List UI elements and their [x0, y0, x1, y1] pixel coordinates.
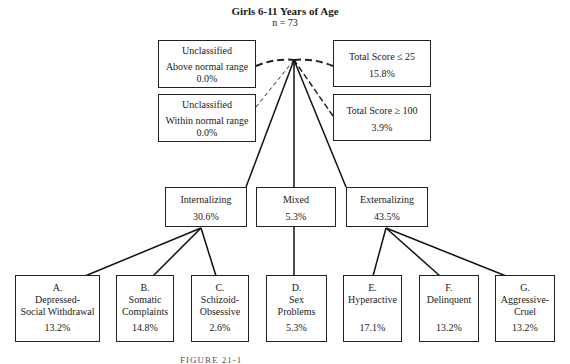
- factor-d-box: D. Sex Problems 5.3%: [266, 275, 327, 342]
- factor-pct: 13.2%: [420, 322, 478, 334]
- group-label: Internalizing: [166, 194, 246, 206]
- unclassified-pct: 0.0%: [159, 127, 255, 139]
- group-pct: 43.5%: [347, 211, 427, 223]
- factor-line1: Schizoid-: [192, 294, 248, 306]
- factor-line1: Somatic: [117, 294, 173, 306]
- factor-pct: 2.6%: [192, 322, 248, 334]
- factor-line2: Social Withdrawal: [16, 306, 99, 318]
- factor-line1: Hyperactive: [344, 294, 401, 306]
- factor-line2: Complaints: [117, 306, 173, 318]
- factor-line2: Cruel: [496, 306, 554, 318]
- group-pct: 30.6%: [166, 211, 246, 223]
- group-mixed-box: Mixed 5.3%: [256, 187, 336, 227]
- factor-letter: D.: [267, 282, 326, 294]
- factor-g-box: G. Aggressive- Cruel 13.2%: [495, 275, 555, 342]
- group-label: Externalizing: [347, 194, 427, 206]
- factor-letter: C.: [192, 282, 248, 294]
- unclassified-above-box: Unclassified Above normal range 0.0%: [158, 40, 256, 88]
- factor-letter: G.: [496, 282, 554, 294]
- total-score-label: Total Score ≤ 25: [334, 51, 430, 63]
- factor-a-box: A. Depressed- Social Withdrawal 13.2%: [15, 275, 100, 342]
- factor-line2: [344, 306, 401, 318]
- total-score-high-box: Total Score ≥ 100 3.9%: [333, 94, 431, 141]
- group-label: Mixed: [257, 194, 335, 206]
- factor-b-box: B. Somatic Complaints 14.8%: [116, 275, 174, 342]
- total-score-pct: 15.8%: [334, 68, 430, 80]
- total-score-low-box: Total Score ≤ 25 15.8%: [333, 40, 431, 87]
- unclassified-label: Unclassified: [159, 99, 255, 111]
- unclassified-label: Unclassified: [159, 45, 255, 57]
- total-score-pct: 3.9%: [334, 122, 430, 134]
- unclassified-within-box: Unclassified Within normal range 0.0%: [158, 94, 256, 142]
- factor-line1: Delinquent: [420, 294, 478, 306]
- factor-letter: F.: [420, 282, 478, 294]
- factor-e-box: E. Hyperactive 17.1%: [343, 275, 402, 342]
- factor-letter: E.: [344, 282, 401, 294]
- factor-line2: Obsessive: [192, 306, 248, 318]
- unclassified-sub: Within normal range: [159, 115, 255, 127]
- unclassified-sub: Above normal range: [159, 61, 255, 73]
- factor-line2: Problems: [267, 306, 326, 318]
- factor-pct: 13.2%: [496, 322, 554, 334]
- total-score-label: Total Score ≥ 100: [334, 105, 430, 117]
- group-internalizing-box: Internalizing 30.6%: [165, 187, 247, 227]
- factor-pct: 13.2%: [16, 322, 99, 334]
- factor-line1: Depressed-: [16, 294, 99, 306]
- factor-line2: [420, 306, 478, 318]
- group-pct: 5.3%: [257, 211, 335, 223]
- factor-f-box: F. Delinquent 13.2%: [419, 275, 479, 342]
- factor-letter: B.: [117, 282, 173, 294]
- factor-pct: 5.3%: [267, 322, 326, 334]
- factor-letter: A.: [16, 282, 99, 294]
- factor-c-box: C. Schizoid- Obsessive 2.6%: [191, 275, 249, 342]
- factor-line1: Aggressive-: [496, 294, 554, 306]
- unclassified-pct: 0.0%: [159, 73, 255, 85]
- figure-caption: FIGURE 21-1: [180, 355, 242, 364]
- factor-line1: Sex: [267, 294, 326, 306]
- factor-pct: 14.8%: [117, 322, 173, 334]
- group-externalizing-box: Externalizing 43.5%: [346, 187, 428, 227]
- factor-pct: 17.1%: [344, 322, 401, 334]
